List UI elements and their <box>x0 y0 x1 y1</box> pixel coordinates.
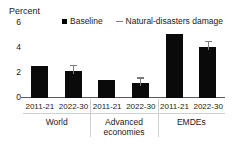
damage-marker-stem <box>140 79 141 87</box>
bar-slot <box>191 20 225 98</box>
x-axis-category-label: 2011-21 <box>158 99 192 113</box>
bars-layer <box>23 20 225 98</box>
y-tick-0: 0 <box>5 93 21 102</box>
damage-marker-stem <box>208 42 209 50</box>
damage-marker-cap[interactable] <box>70 65 77 66</box>
bar-slot <box>90 20 124 98</box>
x-axis-category-label: 2022-30 <box>57 99 91 113</box>
chart-figure: Percent Baseline Natural-disasters damag… <box>0 0 234 144</box>
group-axis: WorldAdvanced economiesEMDEs <box>23 113 225 143</box>
x-axis-group-label: World <box>23 113 90 144</box>
x-axis-category-label: 2011-21 <box>90 99 124 113</box>
x-axis-group-label: Advanced economies <box>90 113 157 144</box>
damage-marker-stem <box>73 66 74 74</box>
x-axis-category-label: 2011-21 <box>23 99 57 113</box>
y-axis-title: Percent <box>9 6 40 16</box>
y-tick-6: 6 <box>5 18 21 27</box>
plot-area <box>23 20 225 98</box>
x-axis-category-label: 2022-30 <box>124 99 158 113</box>
x-axis-group-label: EMDEs <box>158 113 225 144</box>
bar-baseline[interactable] <box>31 66 48 99</box>
bar-baseline[interactable] <box>98 80 115 98</box>
y-tick-2: 2 <box>5 68 21 77</box>
bar-slot <box>57 20 91 98</box>
cropped-text-fragment <box>10 0 106 5</box>
bar-slot <box>158 20 192 98</box>
x-axis-category-label: 2022-30 <box>191 99 225 113</box>
bar-baseline[interactable] <box>166 34 183 98</box>
bar-baseline[interactable] <box>65 71 82 98</box>
damage-marker-cap[interactable] <box>137 77 144 78</box>
bar-slot <box>124 20 158 98</box>
bar-baseline[interactable] <box>199 47 216 98</box>
y-tick-4: 4 <box>5 43 21 52</box>
bar-slot <box>23 20 57 98</box>
damage-marker-cap[interactable] <box>205 41 212 42</box>
category-axis: 2011-212022-302011-212022-302011-212022-… <box>23 99 225 114</box>
